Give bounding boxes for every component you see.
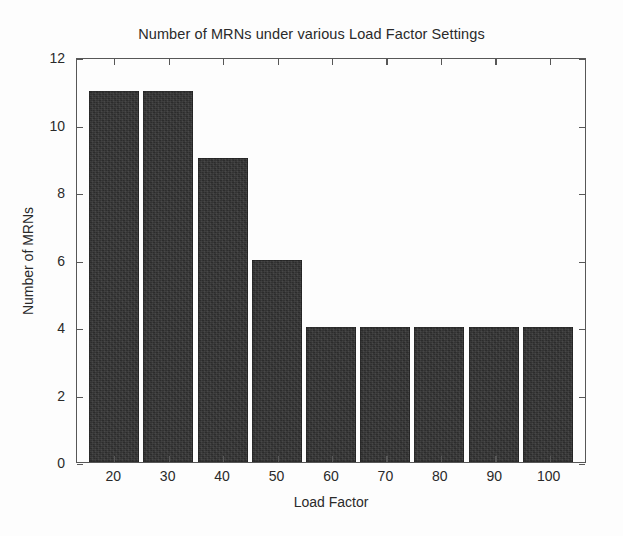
y-axis-label: Number of MRNs (18, 58, 38, 463)
x-axis-tick-label: 40 (195, 468, 249, 490)
chart-title: Number of MRNs under various Load Factor… (0, 26, 623, 42)
y-axis-tick-label: 12 (49, 50, 65, 66)
y-axis-label-text: Number of MRNs (20, 206, 36, 314)
y-axis-tick-mark (77, 464, 83, 465)
y-axis-tick-label: 10 (49, 118, 65, 134)
x-axis-tick-label: 70 (358, 468, 412, 490)
y-axis-tick-label: 4 (57, 320, 65, 336)
y-axis-tick-labels: 024681012 (76, 58, 586, 463)
x-axis-tick-label: 90 (467, 468, 521, 490)
x-axis-label: Load Factor (76, 494, 586, 510)
x-axis-tick-labels: 2030405060708090100 (76, 468, 586, 490)
x-axis-tick-label: 20 (86, 468, 140, 490)
x-axis-tick-label: 80 (413, 468, 467, 490)
chart-figure: Number of MRNs under various Load Factor… (0, 0, 623, 536)
x-axis-tick-label: 30 (140, 468, 194, 490)
y-axis-tick-label: 8 (57, 185, 65, 201)
y-axis-tick-label: 2 (57, 388, 65, 404)
y-axis-tick-label: 6 (57, 253, 65, 269)
x-axis-tick-label: 50 (249, 468, 303, 490)
x-axis-tick-label: 60 (304, 468, 358, 490)
y-axis-tick-mark (579, 464, 585, 465)
y-axis-tick-label: 0 (57, 455, 65, 471)
x-axis-tick-label: 100 (522, 468, 576, 490)
